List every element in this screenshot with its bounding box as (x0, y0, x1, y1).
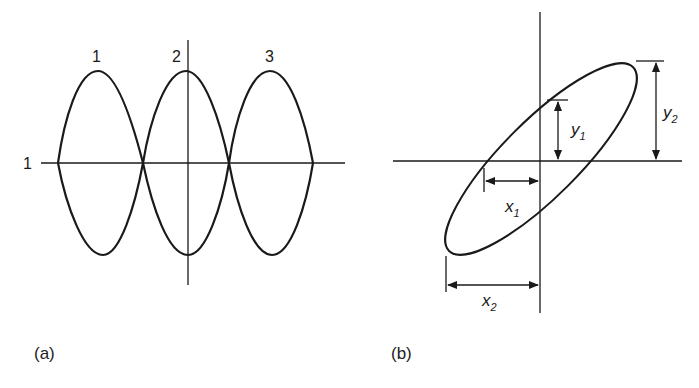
lobe-label-2: 2 (172, 48, 181, 65)
lobe-3-upper (229, 71, 313, 163)
panel-b-figure: y1 y2 x1 x2 (393, 12, 682, 313)
y1-label: y1 (570, 120, 586, 142)
lissajous-ellipse (422, 40, 660, 278)
diagram-canvas: 1 2 3 1 y1 y2 x1 x2 (0, 0, 699, 388)
y2-label: y2 (662, 103, 678, 125)
lobe-label-1: 1 (92, 48, 101, 65)
lobe-1-lower (58, 163, 143, 255)
axis-label-1: 1 (23, 155, 32, 172)
panel-a-caption: (a) (34, 344, 55, 364)
lobe-3-lower (229, 163, 313, 255)
panel-a-figure: 1 2 3 1 (23, 40, 345, 285)
x2-label: x2 (481, 291, 497, 313)
lobe-2-lower (143, 163, 229, 255)
lobe-2-upper (143, 71, 229, 163)
lobe-label-3: 3 (265, 48, 274, 65)
lobe-1-upper (58, 71, 143, 163)
panel-b-caption: (b) (391, 344, 412, 364)
x1-label: x1 (504, 197, 520, 219)
